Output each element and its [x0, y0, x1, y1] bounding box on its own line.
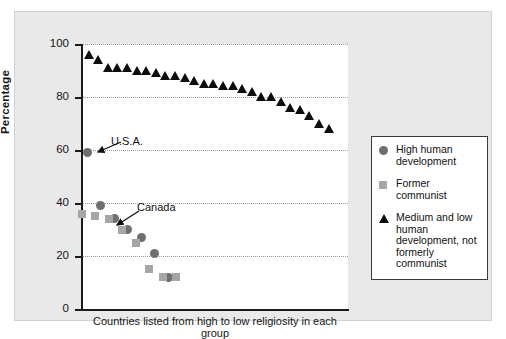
triangle-marker — [189, 76, 199, 85]
triangle-marker — [276, 97, 286, 106]
triangle-marker — [151, 68, 161, 77]
triangle-marker — [160, 71, 170, 80]
triangle-marker — [218, 81, 228, 90]
chart-panel: 100 80 60 40 20 0 Percentage Countries l… — [14, 11, 492, 321]
triangle-marker — [266, 92, 276, 101]
triangle-marker — [247, 87, 257, 96]
triangle-marker-icon — [379, 212, 396, 223]
square-marker — [78, 210, 86, 218]
triangle-marker — [256, 92, 266, 101]
triangle-marker — [228, 81, 238, 90]
triangle-marker — [295, 105, 305, 114]
triangle-marker — [199, 79, 209, 88]
annotation-canada-arrow — [107, 208, 147, 238]
triangle-marker — [180, 73, 190, 82]
chart-legend: High human development Former communist … — [371, 136, 488, 280]
triangle-marker — [237, 84, 247, 93]
square-marker — [132, 239, 140, 247]
square-marker — [172, 273, 180, 281]
triangle-marker — [208, 79, 218, 88]
triangle-marker — [141, 66, 151, 75]
annotation-usa-arrow — [87, 138, 129, 164]
legend-item-medium-low-human-development[interactable]: Medium and low human development, not fo… — [379, 212, 481, 270]
circle-marker-icon — [379, 144, 396, 155]
triangle-marker — [324, 124, 334, 133]
circle-marker — [150, 249, 159, 258]
triangle-marker — [304, 111, 314, 120]
triangle-marker — [132, 66, 142, 75]
square-marker — [145, 265, 153, 273]
triangle-marker — [103, 63, 113, 72]
triangle-marker — [93, 55, 103, 64]
square-marker-icon — [379, 178, 396, 189]
legend-item-high-human-development[interactable]: High human development — [379, 144, 481, 167]
triangle-marker — [285, 103, 295, 112]
triangle-marker — [314, 119, 324, 128]
circle-marker — [96, 201, 105, 210]
y-axis-title: Percentage — [0, 42, 11, 162]
square-marker — [159, 273, 167, 281]
legend-label-medium-low-human-development: Medium and low human development, not fo… — [396, 212, 481, 270]
triangle-marker — [112, 63, 122, 72]
legend-label-former-communist: Former communist — [396, 178, 481, 201]
legend-label-high-human-development: High human development — [396, 144, 481, 167]
triangle-marker — [122, 63, 132, 72]
triangle-marker — [84, 50, 94, 59]
square-marker — [91, 212, 99, 220]
legend-item-former-communist[interactable]: Former communist — [379, 178, 481, 201]
triangle-marker — [170, 71, 180, 80]
